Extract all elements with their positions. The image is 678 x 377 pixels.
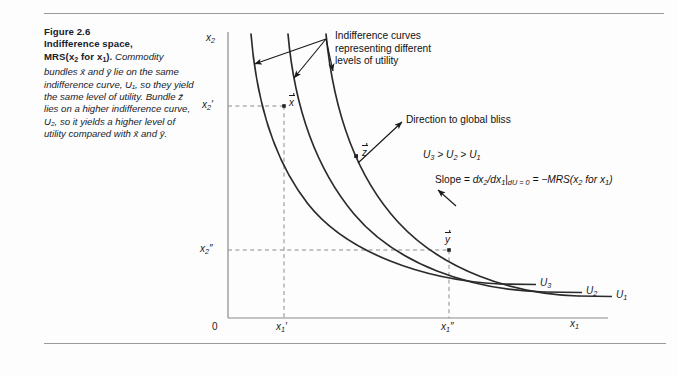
indifference-curves (251, 34, 578, 296)
curve-label-u2-sub: 2 (593, 289, 597, 298)
x-tick-x1-prime: x1′ (276, 321, 287, 334)
slope-dx2: dx (473, 174, 484, 185)
slope-expression: dx2/dx1 (473, 174, 506, 185)
caption-title-line1: Figure 2.6 (44, 26, 90, 37)
curve-u2 (288, 34, 544, 292)
y-tick-1-prime: ′ (211, 99, 213, 110)
slope-dx1: dx (490, 174, 501, 185)
caption-title-line2: Indifference space, (44, 38, 133, 49)
curve-label-u3: U3 (540, 277, 551, 290)
x-tick-2-prime: ″ (450, 321, 454, 332)
y-tick-x2-double-prime: x2″ (200, 243, 213, 256)
slope-mrs-mid: for x (582, 174, 605, 185)
z-bar-vector: z (362, 147, 367, 158)
marker-x-bar (282, 104, 286, 108)
caption-mrs-pre: MRS(x (44, 51, 74, 62)
y-tick-x2-prime: x2′ (202, 99, 213, 112)
top-divider-rule (44, 13, 664, 14)
guide-lines (228, 106, 449, 318)
bottom-divider-rule (44, 343, 666, 344)
y-axis-label-sub: 2 (211, 36, 215, 45)
figure-page: Figure 2.6 Indifference space, MRS(x2 fo… (0, 0, 678, 377)
origin-label: 0 (212, 321, 218, 332)
point-label-z-bar: z (362, 147, 367, 158)
curve-u3 (326, 34, 578, 296)
utility-order-gt2: > (458, 149, 470, 160)
y-axis-label: x2 (206, 32, 215, 45)
global-bliss-note: Direction to global bliss (406, 114, 511, 127)
marker-y-bar (447, 248, 451, 252)
caption-title-line3: MRS(x2 for x1). (44, 51, 112, 62)
figure-caption: Figure 2.6 Indifference space, MRS(x2 fo… (44, 26, 196, 141)
curve-label-u2: U2 (586, 285, 597, 298)
utility-order-gt1: > (434, 149, 446, 160)
slope-leader-arrow (438, 190, 456, 206)
slope-condition: dU = 0 (508, 178, 530, 187)
x-bar-vector: x (289, 97, 294, 108)
slope-label: Slope = (435, 174, 473, 185)
curve-label-u1-sub: 1 (623, 293, 627, 302)
slope-close: ) (609, 174, 612, 185)
caption-mrs-mid: for x (78, 51, 102, 62)
indifference-curves-note: Indifference curves representing differe… (335, 30, 431, 68)
curve-label-u1: U1 (616, 289, 627, 302)
x-axis-label: x1 (570, 318, 579, 331)
slope-mrs: = −MRS(x2 for x1) (530, 174, 613, 185)
y-bar-vector: y (445, 234, 450, 245)
x-axis-label-sub: 1 (575, 322, 579, 331)
point-label-y-bar: y (445, 234, 450, 245)
caption-body-text: Commodity bundles x̄ and ȳ lie on the sa… (44, 51, 194, 139)
utility-order-note: U3 > U2 > U1 (423, 149, 481, 165)
x-tick-x1-double-prime: x1″ (441, 321, 454, 334)
y-tick-2-prime: ″ (209, 243, 213, 254)
slope-formula-note: Slope = dx2/dx1|dU = 0 = −MRS(x2 for x1) (435, 174, 613, 190)
utility-order-u1-sub: 1 (476, 153, 480, 162)
curve-label-u3-sub: 3 (547, 281, 551, 290)
slope-eq: = −MRS(x (530, 174, 579, 185)
x-tick-1-prime: ′ (285, 321, 287, 332)
point-label-x-bar: x (289, 97, 294, 108)
indifference-curve-chart: x2 x1 0 x2′ x2″ x1′ x1″ x z y U3 U2 U1 I… (196, 18, 678, 338)
caption-mrs-post: ). (106, 51, 112, 62)
marker-z-bar (354, 154, 358, 158)
